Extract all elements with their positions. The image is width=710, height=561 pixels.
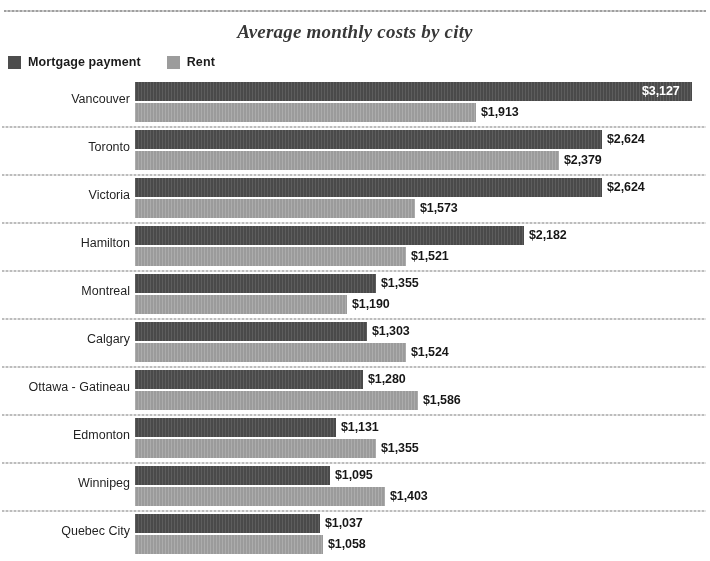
bar-value-label: $1,190 — [352, 297, 390, 311]
legend-swatch-mortgage-payment — [8, 56, 21, 69]
legend-swatch-rent — [167, 56, 180, 69]
bar-rent[interactable] — [135, 535, 323, 554]
category-label: Montreal — [0, 284, 130, 298]
row-separator — [2, 414, 706, 416]
bar-mortgage[interactable] — [135, 418, 336, 437]
bar-mortgage[interactable] — [135, 322, 367, 341]
legend-item-rent[interactable]: Rent — [167, 55, 215, 69]
row-separator — [2, 270, 706, 272]
bar-value-label: $1,058 — [328, 537, 366, 551]
bar-value-label: $1,524 — [411, 345, 449, 359]
chart-row: Hamilton$2,182$1,521 — [0, 222, 710, 270]
row-separator — [2, 366, 706, 368]
row-separator — [2, 126, 706, 128]
category-label: Victoria — [0, 188, 130, 202]
category-label: Ottawa - Gatineau — [0, 380, 130, 394]
chart-row: Edmonton$1,131$1,355 — [0, 414, 710, 462]
category-label: Hamilton — [0, 236, 130, 250]
bar-mortgage[interactable] — [135, 130, 602, 149]
bar-mortgage[interactable] — [135, 274, 376, 293]
category-label: Vancouver — [0, 92, 130, 106]
category-label: Toronto — [0, 140, 130, 154]
chart-row: Vancouver$3,127$1,913 — [0, 78, 710, 126]
bar-mortgage[interactable] — [135, 370, 363, 389]
bar-value-label: $1,521 — [411, 249, 449, 263]
legend-item-mortgage-payment[interactable]: Mortgage payment — [8, 55, 141, 69]
bar-mortgage[interactable] — [135, 514, 320, 533]
bar-rent[interactable] — [135, 151, 559, 170]
bar-rent[interactable] — [135, 487, 385, 506]
row-separator — [2, 222, 706, 224]
bar-value-label: $1,303 — [372, 324, 410, 338]
bar-rent[interactable] — [135, 343, 406, 362]
bar-value-label: $1,355 — [381, 276, 419, 290]
bar-value-label: $1,095 — [335, 468, 373, 482]
bar-value-label: $1,280 — [368, 372, 406, 386]
chart-row: Quebec City$1,037$1,058 — [0, 510, 710, 558]
bar-rent[interactable] — [135, 103, 476, 122]
category-label: Calgary — [0, 332, 130, 346]
bar-value-label: $1,403 — [390, 489, 428, 503]
bar-value-label: $1,131 — [341, 420, 379, 434]
bar-value-label: $2,624 — [607, 132, 645, 146]
chart-row: Calgary$1,303$1,524 — [0, 318, 710, 366]
row-separator — [2, 462, 706, 464]
category-label: Quebec City — [0, 524, 130, 538]
chart-row: Victoria$2,624$1,573 — [0, 174, 710, 222]
top-divider-rule — [4, 10, 706, 12]
bar-value-label: $2,182 — [529, 228, 567, 242]
bar-mortgage[interactable] — [135, 466, 330, 485]
bar-value-label: $1,586 — [423, 393, 461, 407]
chart-row: Montreal$1,355$1,190 — [0, 270, 710, 318]
bar-value-label: $2,379 — [564, 153, 602, 167]
bar-mortgage[interactable] — [135, 82, 692, 101]
chart-row: Winnipeg$1,095$1,403 — [0, 462, 710, 510]
row-separator — [2, 318, 706, 320]
bar-value-label: $2,624 — [607, 180, 645, 194]
bar-rent[interactable] — [135, 439, 376, 458]
legend-label-rent: Rent — [187, 55, 215, 69]
bar-rent[interactable] — [135, 199, 415, 218]
bar-rent[interactable] — [135, 247, 406, 266]
bar-value-label: $3,127 — [642, 84, 680, 98]
bar-rent[interactable] — [135, 295, 347, 314]
row-separator — [2, 510, 706, 512]
bar-rent[interactable] — [135, 391, 418, 410]
category-label: Winnipeg — [0, 476, 130, 490]
bar-value-label: $1,913 — [481, 105, 519, 119]
row-separator — [2, 174, 706, 176]
bar-value-label: $1,037 — [325, 516, 363, 530]
category-label: Edmonton — [0, 428, 130, 442]
legend-label-mortgage-payment: Mortgage payment — [28, 55, 141, 69]
chart-title: Average monthly costs by city — [0, 21, 710, 43]
bar-mortgage[interactable] — [135, 178, 602, 197]
bar-value-label: $1,355 — [381, 441, 419, 455]
chart-row: Toronto$2,624$2,379 — [0, 126, 710, 174]
bar-mortgage[interactable] — [135, 226, 524, 245]
chart-legend: Mortgage payment Rent — [8, 55, 215, 69]
chart-row: Ottawa - Gatineau$1,280$1,586 — [0, 366, 710, 414]
bar-value-label: $1,573 — [420, 201, 458, 215]
bar-chart-plot-area: Vancouver$3,127$1,913Toronto$2,624$2,379… — [0, 78, 710, 561]
